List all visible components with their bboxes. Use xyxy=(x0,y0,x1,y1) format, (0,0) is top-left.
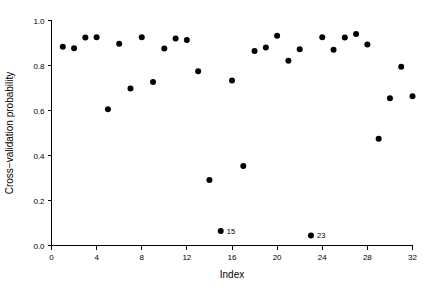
data-point xyxy=(308,232,314,238)
y-axis: 0.00.20.40.60.81.0Cross−validation proba… xyxy=(4,17,52,251)
x-axis-tick-label: 12 xyxy=(182,253,191,262)
y-axis-tick-label: 0.8 xyxy=(33,62,45,71)
data-point xyxy=(82,34,88,40)
data-point xyxy=(173,36,179,42)
data-point xyxy=(184,37,190,43)
x-axis-tick-label: 4 xyxy=(94,253,99,262)
data-point xyxy=(410,93,416,99)
data-point xyxy=(105,106,111,112)
data-point xyxy=(398,64,404,70)
data-point-label: 15 xyxy=(227,227,235,236)
x-axis-tick-label: 32 xyxy=(408,253,417,262)
data-point xyxy=(376,136,382,142)
data-point xyxy=(195,68,201,74)
data-point xyxy=(331,47,337,53)
data-point xyxy=(342,34,348,40)
x-axis-tick-label: 20 xyxy=(273,253,282,262)
data-point xyxy=(116,41,122,47)
scatter-plot-figure: 0.00.20.40.60.81.0Cross−validation proba… xyxy=(0,0,440,288)
y-axis-tick-label: 0.6 xyxy=(33,107,45,116)
y-axis-tick-label: 1.0 xyxy=(33,17,45,26)
x-axis: 048121620242832Index xyxy=(49,246,417,280)
data-point xyxy=(297,46,303,52)
y-axis-title: Cross−validation probability xyxy=(4,72,15,195)
x-axis-tick-label: 28 xyxy=(363,253,372,262)
data-point xyxy=(274,33,280,39)
x-axis-title: Index xyxy=(220,269,244,280)
data-point xyxy=(364,42,370,48)
data-point xyxy=(263,45,269,51)
y-axis-tick-label: 0.2 xyxy=(33,197,45,206)
data-point xyxy=(150,79,156,85)
data-point xyxy=(252,48,258,54)
y-axis-tick-label: 0.4 xyxy=(33,152,45,161)
data-point xyxy=(206,177,212,183)
data-point xyxy=(71,45,77,51)
y-axis-tick-label: 0.0 xyxy=(33,242,45,251)
data-point xyxy=(60,44,66,50)
data-point-label: 23 xyxy=(317,231,325,240)
data-point xyxy=(319,34,325,40)
x-axis-tick-label: 0 xyxy=(49,253,54,262)
data-point xyxy=(229,78,235,84)
x-axis-tick-label: 16 xyxy=(228,253,237,262)
data-point xyxy=(139,34,145,40)
data-point xyxy=(94,34,100,40)
data-point xyxy=(285,58,291,64)
data-point xyxy=(161,45,167,51)
data-point xyxy=(240,163,246,169)
data-series xyxy=(60,31,416,238)
plot-canvas: 0.00.20.40.60.81.0Cross−validation proba… xyxy=(0,0,440,288)
data-point xyxy=(218,228,224,234)
data-point xyxy=(387,95,393,101)
data-point xyxy=(127,85,133,91)
x-axis-tick-label: 8 xyxy=(140,253,145,262)
x-axis-tick-label: 24 xyxy=(318,253,327,262)
data-point xyxy=(353,31,359,37)
